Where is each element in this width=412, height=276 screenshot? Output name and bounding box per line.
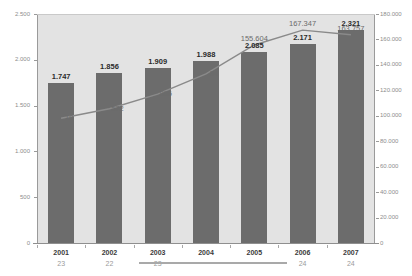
line-value-label: 167.347 bbox=[281, 19, 325, 28]
right-axis-tick-label: 120.000 bbox=[380, 87, 412, 94]
right-axis-tick bbox=[376, 65, 379, 66]
bar-value-label: 1.988 bbox=[184, 50, 228, 59]
right-axis-tick bbox=[376, 39, 379, 40]
right-axis-tick bbox=[376, 90, 379, 91]
line-value-label: 572 bbox=[95, 104, 139, 113]
right-axis-tick-label: 60.000 bbox=[380, 163, 412, 170]
category-axis-tick bbox=[182, 245, 183, 248]
right-axis-tick bbox=[376, 167, 379, 168]
line-value-label: 34 bbox=[192, 69, 236, 78]
right-axis-tick-label: 160.000 bbox=[380, 36, 412, 43]
left-axis-tick-label: 500 bbox=[0, 194, 30, 201]
left-axis-tick-label: 2.500 bbox=[0, 11, 30, 18]
line-series bbox=[37, 14, 375, 243]
line-value-label: 10 bbox=[47, 113, 91, 122]
category-axis-line bbox=[33, 243, 379, 244]
category-sublabel: 23 bbox=[36, 259, 86, 268]
left-axis-tick-label: 0 bbox=[0, 240, 30, 247]
bar-value-label: 1.747 bbox=[39, 72, 83, 81]
right-axis-tick-label: 80.000 bbox=[380, 138, 412, 145]
bar-value-label: 2.171 bbox=[281, 33, 325, 42]
category-axis-tick bbox=[327, 245, 328, 248]
left-axis-tick-label: 2.000 bbox=[0, 56, 30, 63]
left-axis-tick-label: 1.500 bbox=[0, 102, 30, 109]
right-axis-tick bbox=[376, 14, 379, 15]
left-axis-tick-label: 1.000 bbox=[0, 148, 30, 155]
category-sublabel: 24 bbox=[326, 259, 376, 268]
category-label: 2006 bbox=[278, 248, 328, 257]
category-label: 2002 bbox=[84, 248, 134, 257]
right-axis-tick bbox=[376, 192, 379, 193]
bar-value-label: 1.909 bbox=[136, 57, 180, 66]
category-label: 2007 bbox=[326, 248, 376, 257]
category-label: 2001 bbox=[36, 248, 86, 257]
combo-chart: 05001.0001.5002.0002.500 020.00040.00060… bbox=[0, 0, 412, 276]
line-value-label: 996 bbox=[144, 89, 188, 98]
right-axis-tick-label: 140.000 bbox=[380, 61, 412, 68]
right-axis-tick bbox=[376, 141, 379, 142]
category-label: 2003 bbox=[133, 248, 183, 257]
category-axis-tick bbox=[37, 245, 38, 248]
category-axis-tick bbox=[230, 245, 231, 248]
right-axis-tick-label: 0 bbox=[380, 240, 412, 247]
right-axis-tick-label: 40.000 bbox=[380, 189, 412, 196]
category-sublabel: 22 bbox=[84, 259, 134, 268]
right-axis-tick bbox=[376, 218, 379, 219]
category-axis-tick bbox=[278, 245, 279, 248]
right-axis-tick-label: 100.000 bbox=[380, 112, 412, 119]
category-label: 2004 bbox=[181, 248, 231, 257]
bar-value-label: 1.856 bbox=[87, 62, 131, 71]
right-axis-tick-label: 180.000 bbox=[380, 11, 412, 18]
category-label: 2005 bbox=[229, 248, 279, 257]
right-axis-tick-label: 20.000 bbox=[380, 214, 412, 221]
legend-line-marker bbox=[139, 262, 287, 264]
right-axis-tick bbox=[376, 116, 379, 117]
line-value-label: 155.604 bbox=[232, 34, 276, 43]
category-axis-tick bbox=[134, 245, 135, 248]
category-axis-tick bbox=[85, 245, 86, 248]
line-value-label: 163.757 bbox=[329, 24, 373, 33]
